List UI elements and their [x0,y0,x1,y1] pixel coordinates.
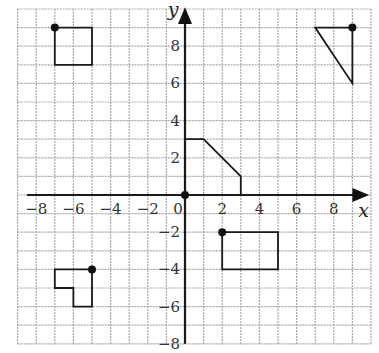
vertex-dot [88,265,96,273]
shape-pentagon [185,139,241,195]
x-tick-label: 6 [292,200,302,218]
y-tick-label: −2 [158,223,180,241]
x-tick-label: 4 [255,200,265,218]
x-tick-label: −8 [25,200,47,218]
y-axis-label: y [167,0,179,20]
y-tick-label: −6 [158,298,180,316]
x-tick-label: 0 [173,200,183,218]
x-tick-label: −2 [137,200,159,218]
x-tick-label: 8 [329,200,339,218]
y-tick-label: 2 [170,149,180,167]
vertex-dot [181,191,189,199]
y-tick-label: 8 [170,37,180,55]
y-tick-label: −8 [158,335,180,353]
vertex-dot [51,24,59,32]
tick-labels: −8−6−4−2024688642−2−4−6−8xy [25,0,369,353]
y-axis-arrow-icon [178,7,192,24]
x-tick-label: −6 [62,200,84,218]
x-tick-label: −4 [100,200,122,218]
y-tick-label: 6 [170,74,180,92]
vertex-dot [348,24,356,32]
grid-lines [18,9,371,344]
axes [27,7,369,344]
x-axis-label: x [358,199,369,221]
y-tick-label: −4 [158,260,180,278]
vertex-dot [218,228,226,236]
x-tick-label: 2 [217,200,227,218]
y-tick-label: 4 [170,112,180,130]
coordinate-plane: −8−6−4−2024688642−2−4−6−8xy [0,0,379,353]
